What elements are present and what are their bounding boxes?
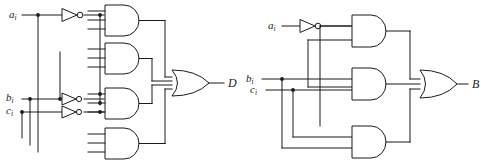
figure-canvas: ai bi ci D: [0, 0, 481, 165]
right-and-gate-2-body: [352, 68, 386, 100]
junction-ci-and3: [98, 110, 102, 114]
label-right-output-b: B: [472, 77, 480, 91]
inverter-b: [62, 93, 82, 105]
right-vertical-buses: [282, 26, 352, 148]
and-gate-1-body: [105, 5, 139, 36]
inverter-a-bubble: [77, 12, 83, 18]
junction-ai-and3: [98, 92, 102, 96]
junction-right-b: [280, 77, 284, 81]
left-and-gate-2: [88, 43, 152, 74]
and-gate-2-body: [105, 43, 139, 74]
right-circuit: ai bi ci B: [246, 15, 480, 158]
left-vertical-buses: [22, 15, 100, 152]
or-gate-b-body: [420, 70, 457, 98]
label-left-a: ai: [9, 8, 17, 22]
logic-circuit-diagram: ai bi ci D: [0, 0, 481, 165]
label-right-c: ci: [250, 83, 257, 97]
inverter-b-triangle: [62, 93, 76, 105]
and-gate-4-body: [105, 128, 139, 159]
inverter-a: [62, 9, 83, 22]
right-or-gate: [420, 70, 468, 98]
junction-a-bus: [36, 13, 40, 17]
and-gate-3-body: [105, 88, 139, 119]
left-and-gate-3: [88, 88, 152, 119]
right-or-routing: [410, 31, 420, 142]
left-circuit: ai bi ci D: [6, 5, 237, 159]
junction-b-up: [58, 97, 62, 101]
junction-b-bus: [28, 97, 32, 101]
junction-right-c: [291, 88, 295, 92]
label-left-output-d: D: [227, 76, 237, 90]
junction-c-bus: [20, 110, 24, 114]
or-gate-d-body: [172, 70, 209, 96]
right-and-gate-3: [352, 126, 410, 158]
inverter-c-bubble: [76, 109, 81, 114]
inverter-b-bubble: [76, 96, 81, 101]
label-left-b: bi: [6, 91, 14, 105]
inverter-a-triangle: [62, 9, 77, 22]
right-and-gate-1: [352, 15, 410, 47]
label-right-a: ai: [268, 19, 276, 33]
right-inverter-a: [300, 20, 321, 33]
left-and-gate-4: [88, 128, 165, 159]
inverter-c-triangle: [62, 106, 76, 118]
left-or-gate: [172, 70, 224, 96]
inverter-c: [62, 106, 82, 118]
label-left-c: ci: [6, 104, 13, 118]
left-or-routing: [152, 21, 172, 144]
right-and-gate-3-body: [352, 126, 386, 158]
junction-bi-and3: [98, 101, 102, 105]
junction-a-inverted: [98, 13, 102, 17]
right-inverter-a-triangle: [300, 20, 315, 33]
right-and-gate-1-body: [352, 15, 386, 47]
